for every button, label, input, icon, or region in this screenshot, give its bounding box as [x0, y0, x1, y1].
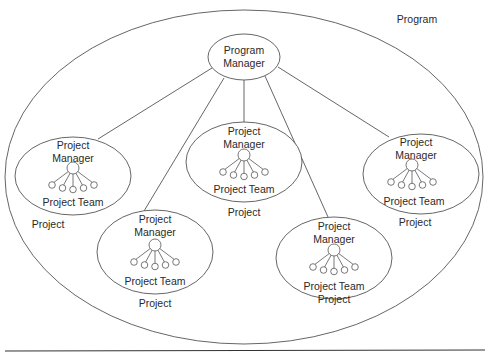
program-manager-line1: Program: [223, 44, 264, 57]
project-label: Project: [32, 218, 65, 231]
project-manager-label: Project Manager: [223, 125, 264, 151]
program-manager-line2: Manager: [223, 57, 264, 70]
project-manager-line1: Project: [223, 125, 264, 138]
project-manager-line2: Manager: [223, 138, 264, 151]
project-manager-label: Project Manager: [52, 139, 93, 165]
project-manager-label: Project Manager: [134, 213, 175, 239]
program-label: Program: [397, 13, 437, 26]
project-team-label: Project Team: [42, 196, 103, 209]
project-manager-line1: Project: [52, 139, 93, 152]
project-manager-line2: Manager: [395, 149, 436, 162]
program-manager-label: Program Manager: [223, 44, 264, 70]
project-manager-label: Project Manager: [313, 220, 354, 246]
project-manager-line2: Manager: [134, 226, 175, 239]
project-label: Project: [228, 206, 261, 219]
project-manager-line2: Manager: [313, 233, 354, 246]
project-team-label: Project Team: [383, 195, 444, 208]
project-manager-label: Project Manager: [395, 136, 436, 162]
connector-right: [278, 67, 389, 137]
project-label: Project: [318, 293, 351, 306]
connector-left: [98, 68, 212, 139]
project-team-label: Project Team: [124, 275, 185, 288]
bottom-rule: [5, 350, 485, 351]
project-team-label: Project Team: [213, 183, 274, 196]
project-label: Project: [399, 216, 432, 229]
project-label: Project: [139, 297, 172, 310]
project-manager-line1: Project: [313, 220, 354, 233]
project-manager-line2: Manager: [52, 152, 93, 165]
project-manager-line1: Project: [134, 213, 175, 226]
project-manager-line1: Project: [395, 136, 436, 149]
project-team-label: Project Team: [303, 280, 364, 293]
